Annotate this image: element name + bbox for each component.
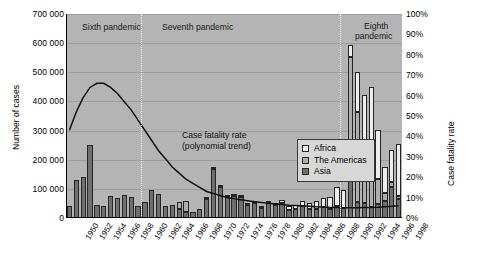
x-axis-tick-label: 1962: [167, 222, 183, 241]
x-axis: 1950195219541956195819601962196419661968…: [66, 220, 402, 269]
legend-item: The Americas: [302, 155, 367, 167]
chart-container: Sixth pandemic Seventh pandemic Eighth p…: [0, 0, 481, 269]
x-axis-tick-label: 1960: [153, 222, 169, 241]
pandemic-label-eighth: Eighth: [364, 21, 388, 31]
y2-axis-tick-label: 90%: [406, 30, 436, 39]
y2-axis-tick-label: 30%: [406, 153, 436, 162]
y-axis-tick-label: 100 000: [2, 185, 64, 194]
x-axis-tick-label: 1968: [208, 222, 224, 241]
legend: AfricaThe AmericasAsia: [297, 139, 375, 182]
pandemic-divider: [141, 14, 142, 218]
x-axis-tick-label: 1950: [85, 222, 101, 241]
x-axis-tick-label: 1980: [291, 222, 307, 241]
x-axis-tick-label: 1974: [249, 222, 265, 241]
y-axis-tick-label: 600 000: [2, 39, 64, 48]
legend-swatch: [302, 145, 309, 152]
y2-axis-tick-label: 20%: [406, 173, 436, 182]
y2-axis-tick-label: 60%: [406, 92, 436, 101]
y-axis-left: 0100 000200 000300 000400 000500 000600 …: [0, 0, 64, 269]
y-axis-right-title: Case fatality rate: [446, 122, 456, 186]
x-axis-tick-label: 1952: [99, 222, 115, 241]
legend-swatch: [302, 168, 309, 175]
y-axis-tick-label: 0: [2, 214, 64, 223]
legend-label: The Americas: [314, 156, 367, 165]
legend-label: Africa: [314, 144, 336, 153]
x-axis-tick-label: 1966: [195, 222, 211, 241]
y-axis-tick-label: 500 000: [2, 68, 64, 77]
y2-axis-tick-label: 10%: [406, 194, 436, 203]
y-axis-tick-label: 200 000: [2, 156, 64, 165]
x-axis-tick-label: 1988: [345, 222, 361, 241]
legend-swatch: [302, 157, 309, 164]
y2-axis-tick-label: 40%: [406, 132, 436, 141]
y-axis-tick-label: 700 000: [2, 10, 64, 19]
y2-axis-tick-label: 50%: [406, 112, 436, 121]
pandemic-label-sixth: Sixth pandemic: [82, 22, 141, 32]
x-axis-tick-label: 1990: [359, 222, 375, 241]
case-fatality-trend-curve: [66, 14, 402, 218]
y2-axis-tick-label: 80%: [406, 51, 436, 60]
annotation-line-1: Case fatality rate: [182, 130, 251, 141]
y2-axis-tick-label: 100%: [406, 10, 436, 19]
pandemic-label-eighth-line2: pandemic: [355, 31, 392, 41]
legend-item: Africa: [302, 143, 367, 155]
x-axis-tick-label: 1982: [304, 222, 320, 241]
x-axis-tick-label: 1994: [387, 222, 403, 241]
y-axis-left-title: Number of cases: [11, 85, 21, 150]
annotation-line-2: (polynomial trend): [182, 141, 251, 152]
plot-area: Sixth pandemic Seventh pandemic Eighth p…: [66, 14, 402, 218]
x-axis-tick-label: 1976: [263, 222, 279, 241]
case-fatality-annotation: Case fatality rate (polynomial trend): [182, 130, 251, 151]
y2-axis-tick-label: 70%: [406, 71, 436, 80]
x-axis-tick-label: 1954: [112, 222, 128, 241]
pandemic-divider: [340, 14, 341, 218]
pandemic-label-seventh: Seventh pandemic: [162, 22, 233, 32]
legend-item: Asia: [302, 166, 367, 178]
legend-label: Asia: [314, 167, 331, 176]
